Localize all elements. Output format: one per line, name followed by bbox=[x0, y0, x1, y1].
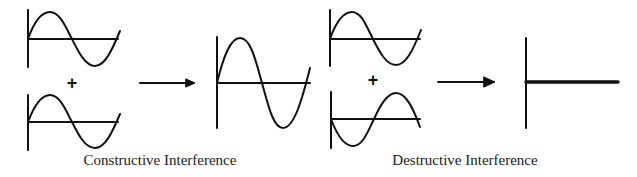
destructive-arrow bbox=[438, 77, 495, 87]
constructive-plus-sign: + bbox=[67, 74, 78, 92]
destructive-plus-sign: + bbox=[368, 71, 379, 89]
destructive-input-wave-1 bbox=[330, 10, 421, 66]
destructive-result-flat bbox=[526, 38, 618, 128]
constructive-input-wave-1 bbox=[28, 10, 120, 67]
destructive-caption: Destructive Interference bbox=[392, 152, 537, 169]
constructive-arrow bbox=[140, 79, 195, 87]
destructive-input-wave-2-inverted bbox=[331, 92, 420, 148]
constructive-input-wave-2 bbox=[28, 95, 120, 150]
constructive-caption: Constructive Interference bbox=[84, 152, 237, 169]
constructive-result-wave bbox=[217, 37, 310, 128]
interference-diagram bbox=[0, 0, 637, 177]
